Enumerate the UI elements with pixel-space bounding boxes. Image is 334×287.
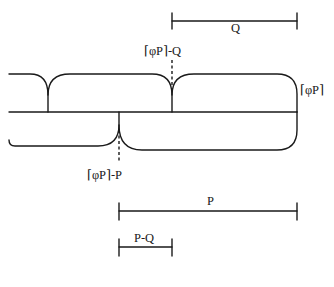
cusp-top-label: ⌈φP⌉-Q (144, 44, 181, 58)
top-row-segment-3 (172, 74, 297, 112)
q-interval-label: Q (231, 21, 240, 35)
p-minus-q-interval-bar: P-Q (119, 231, 172, 256)
bottom-row-segment-2 (119, 112, 297, 150)
p-interval-bar: P (119, 194, 297, 220)
q-interval-bar: Q (172, 13, 297, 35)
top-row-segment-2 (48, 74, 172, 112)
cusp-bottom-label: ⌈φP⌉-P (87, 168, 122, 182)
interval-diagram: Q ⌈φP⌉-Q ⌈φP⌉ ⌈φP⌉-P P P-Q (0, 0, 334, 287)
p-minus-q-interval-label: P-Q (134, 231, 154, 245)
p-interval-label: P (207, 194, 214, 208)
bottom-row-segment-1 (9, 112, 119, 146)
top-row-segment-1 (9, 74, 48, 112)
right-edge-label: ⌈φP⌉ (300, 83, 324, 97)
